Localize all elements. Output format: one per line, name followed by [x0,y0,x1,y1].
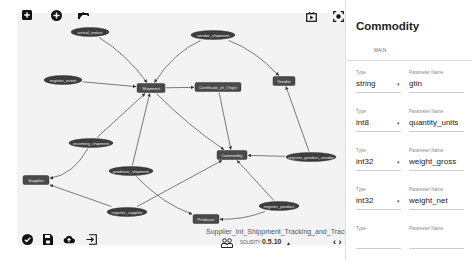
save-icon[interactable] [42,233,54,245]
graph-canvas[interactable]: arrival_noticevendor_shipmentregister_ev… [0,0,345,260]
graph-edge[interactable] [97,94,145,138]
node-label: incoming_shipment [73,141,110,146]
type-underline [356,170,401,171]
function-node-vendor-shipment[interactable]: vendor_shipment [191,31,235,40]
type-underline [356,209,401,210]
type-underline [356,248,401,249]
tab-divider [346,60,472,61]
graph-edge[interactable] [137,161,222,207]
function-node-producer-shipment[interactable]: producer_shipment [109,167,153,176]
type-select[interactable]: int32 [356,157,373,166]
properties-panel: Commodity MAIN TypeParameter Namestring▾… [345,0,472,260]
solidity-version[interactable]: 0.5.10 [262,238,281,245]
graph-edge[interactable] [50,185,111,207]
dropdown-caret-icon[interactable]: ▾ [397,159,400,165]
type-label: Type [356,70,366,75]
play-box-icon[interactable] [305,11,317,23]
dropdown-caret-icon[interactable]: ▾ [397,81,400,87]
parameter-row: TypeParameter Name [346,224,472,260]
type-label: Type [356,148,366,153]
type-label: Type [356,109,366,114]
node-label: vendor_shipment [197,33,230,38]
parameter-name-label: Parameter Name [409,70,443,75]
function-node-incoming-shipment[interactable]: incoming_shipment [69,139,113,148]
name-underline [409,92,464,93]
type-select[interactable]: int8 [356,118,369,127]
graph-edge[interactable] [155,41,201,83]
entity-node-shipment[interactable]: Shipment [137,84,165,93]
name-underline [409,248,464,249]
type-label: Type [356,187,366,192]
graph-edge[interactable] [50,149,88,179]
code-icon[interactable]: ‹ › [333,237,342,247]
parameter-name-label: Parameter Name [409,109,443,114]
add-circle-icon[interactable] [50,9,62,21]
entity-node-commodity[interactable]: Commodity [217,151,247,160]
name-underline [409,170,464,171]
panel-title: Commodity [356,20,419,32]
function-node-arrival-notice[interactable]: arrival_notice [71,28,109,37]
type-label: Type [356,226,366,231]
node-label: register_event [50,78,77,83]
focus-icon[interactable] [332,10,344,22]
type-select[interactable]: string [356,79,376,88]
add-square-icon[interactable] [21,9,33,21]
solidity-label: SOLIDITY: [240,240,262,245]
project-name: Supplier_Int_Shippment_Tracking_and_Trac… [206,228,358,235]
type-underline [356,131,401,132]
function-node-register-product-vendor[interactable]: register_product_vendor [286,153,336,162]
node-label: Commodity [221,153,243,158]
function-node-register-event[interactable]: register_event [44,76,82,85]
check-circle-icon[interactable] [21,233,33,245]
version-caret-icon[interactable]: ▲ [286,240,291,246]
function-node-register-product[interactable]: register_product [259,202,299,211]
graph-edge[interactable] [237,161,274,201]
graph-edge[interactable] [219,93,231,150]
cloud-upload-icon[interactable] [63,233,75,245]
parameter-name-input[interactable]: gtin [409,79,422,88]
type-underline [356,92,401,93]
dropdown-caret-icon[interactable]: ▾ [397,198,400,204]
parameter-name-label: Parameter Name [409,148,443,153]
graph-edge[interactable] [132,94,149,166]
parameter-name-label: Parameter Name [409,226,443,231]
node-label: Supplier [28,178,44,183]
node-label: register_product [264,204,295,209]
type-select[interactable]: int32 [356,196,373,205]
entity-node-vendor[interactable]: Vendor [273,77,295,86]
graph-edge[interactable] [286,87,309,152]
dropdown-caret-icon[interactable]: ▾ [397,120,400,126]
graph-edge[interactable] [220,212,265,220]
node-label: Shipment [142,86,161,91]
graph-edge[interactable] [83,82,136,87]
node-label: register_product_vendor [288,155,334,160]
parameter-name-input[interactable]: weight_net [409,196,448,205]
node-label: register_supplier [112,210,144,215]
node-label: Vendor [277,79,291,84]
undo-arrow-icon[interactable] [77,10,89,22]
graph-edge[interactable] [136,177,192,215]
parameter-row: TypeParameter Nameint32▾weight_net [346,185,472,225]
parameter-name-input[interactable]: weight_gross [409,157,456,166]
entity-graph[interactable]: arrival_noticevendor_shipmentregister_ev… [0,0,345,260]
parameter-row: TypeParameter Namestring▾gtin [346,68,472,108]
node-label: arrival_notice [78,30,104,35]
graph-edge[interactable] [229,41,279,76]
tab-main[interactable]: MAIN [374,48,386,53]
parameter-name-input[interactable]: quantity_units [409,118,458,127]
entity-node-certificate-of-origin[interactable]: Certificate_of_Origin [195,83,241,92]
function-node-register-supplier[interactable]: register_supplier [107,208,147,217]
people-icon[interactable] [221,238,233,249]
parameter-name-label: Parameter Name [409,187,443,192]
name-underline [409,131,464,132]
graph-edge[interactable] [248,155,285,156]
node-label: Producer [198,217,216,222]
export-icon[interactable] [85,233,97,245]
parameter-row: TypeParameter Nameint32▾weight_gross [346,146,472,186]
entity-node-producer[interactable]: Producer [193,215,219,224]
graph-edge[interactable] [99,38,147,83]
node-label: producer_shipment [113,169,150,174]
entity-node-supplier[interactable]: Supplier [23,176,49,185]
graph-edge[interactable] [156,94,223,150]
name-underline [409,209,464,210]
